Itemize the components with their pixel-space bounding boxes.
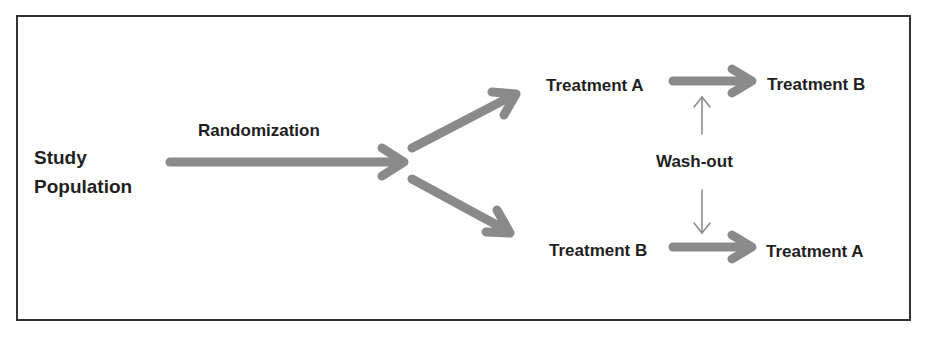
study-population-line2: Population (34, 172, 132, 201)
arm2-period1-label: Treatment B (549, 242, 647, 259)
study-population-label: Study Population (34, 143, 132, 201)
study-population-line1: Study (34, 143, 132, 172)
diagram-frame (16, 15, 911, 321)
arm2-period2-label: Treatment A (766, 243, 864, 260)
arm1-period2-label: Treatment B (767, 76, 865, 93)
randomization-label: Randomization (198, 122, 320, 139)
arm1-period1-label: Treatment A (546, 77, 644, 94)
washout-label: Wash-out (656, 153, 733, 170)
